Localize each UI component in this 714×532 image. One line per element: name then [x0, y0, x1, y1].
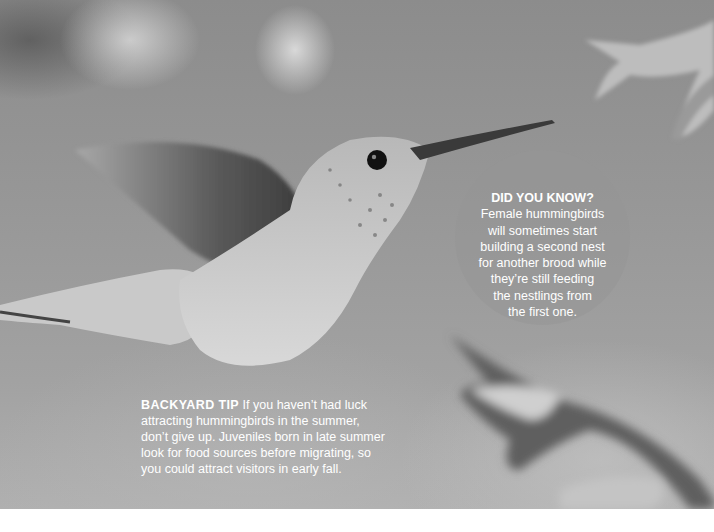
did-you-know-line: Female hummingbirds	[455, 206, 630, 222]
did-you-know-line: the nestlings from	[455, 288, 630, 304]
did-you-know-line: building a second nest	[455, 239, 630, 255]
did-you-know-line: they’re still feeding	[455, 271, 630, 287]
did-you-know-line: for another brood while	[455, 255, 630, 271]
backyard-tip: BACKYARD TIP If you haven’t had luck att…	[141, 397, 389, 477]
did-you-know-text: DID YOU KNOW? Female hummingbirds will s…	[455, 190, 630, 320]
flower-top-right	[585, 20, 714, 140]
eye	[367, 150, 387, 170]
did-you-know-heading: DID YOU KNOW?	[455, 190, 630, 206]
did-you-know-line: the first one.	[455, 304, 630, 320]
backyard-tip-label: BACKYARD TIP	[141, 398, 239, 412]
did-you-know-line: will sometimes start	[455, 223, 630, 239]
flower-lower-right	[450, 335, 714, 509]
